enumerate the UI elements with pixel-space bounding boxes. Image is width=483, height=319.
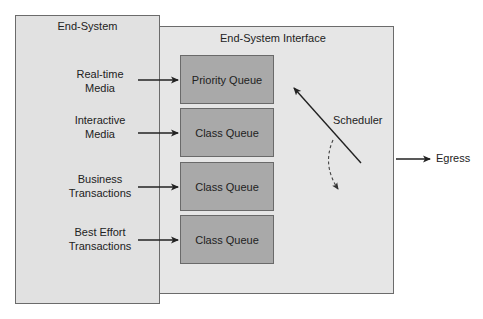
priority-queue: Priority Queue xyxy=(180,55,274,104)
egress-label: Egress xyxy=(436,152,470,164)
source-best-effort-transactions: Best Effort Transactions xyxy=(50,225,150,253)
interface-title: End-System Interface xyxy=(220,32,326,44)
end-system-title: End-System xyxy=(16,20,159,32)
queue-label: Class Queue xyxy=(195,127,259,139)
source-real-time-media: Real-time Media xyxy=(50,67,150,95)
queue-label: Priority Queue xyxy=(192,74,262,86)
source-label-line1: Interactive xyxy=(50,113,150,127)
source-label-line2: Transactions xyxy=(50,186,150,200)
source-label-line1: Best Effort xyxy=(50,225,150,239)
class-queue-1: Class Queue xyxy=(180,108,274,157)
source-label-line2: Transactions xyxy=(50,239,150,253)
class-queue-3: Class Queue xyxy=(180,215,274,264)
class-queue-2: Class Queue xyxy=(180,162,274,211)
source-interactive-media: Interactive Media xyxy=(50,113,150,141)
source-label-line2: Media xyxy=(50,81,150,95)
queue-label: Class Queue xyxy=(195,234,259,246)
end-system-box: End-System xyxy=(15,15,160,304)
scheduler-label: Scheduler xyxy=(333,114,383,126)
source-label-line1: Real-time xyxy=(50,67,150,81)
source-business-transactions: Business Transactions xyxy=(50,172,150,200)
queue-label: Class Queue xyxy=(195,181,259,193)
source-label-line1: Business xyxy=(50,172,150,186)
source-label-line2: Media xyxy=(50,127,150,141)
